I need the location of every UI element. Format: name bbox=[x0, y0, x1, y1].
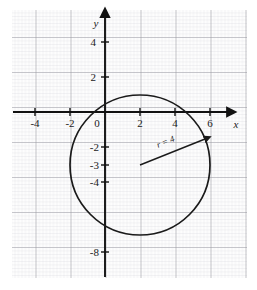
x-tick-label-4: 4 bbox=[172, 117, 178, 129]
x-tick-label-neg4: -4 bbox=[30, 117, 40, 129]
y-tick-label-neg8: -8 bbox=[90, 246, 100, 258]
coordinate-plane-svg: r = 4 -4 -2 0 2 4 6 4 2 -2 -3 -4 -8 x y bbox=[0, 0, 257, 290]
x-tick-label-2: 2 bbox=[137, 117, 143, 129]
graph-figure: r = 4 -4 -2 0 2 4 6 4 2 -2 -3 -4 -8 x y bbox=[0, 0, 257, 290]
x-tick-label-neg2: -2 bbox=[65, 117, 74, 129]
y-tick-label-2: 2 bbox=[91, 71, 97, 83]
y-tick-label-neg4: -4 bbox=[90, 176, 100, 188]
x-tick-label-0: 0 bbox=[94, 117, 100, 129]
y-axis-label: y bbox=[93, 17, 99, 29]
x-axis-label: x bbox=[233, 118, 239, 130]
x-tick-label-6: 6 bbox=[207, 117, 213, 129]
y-tick-label-4: 4 bbox=[91, 36, 97, 48]
y-tick-label-neg3: -3 bbox=[90, 159, 100, 171]
y-tick-label-neg2: -2 bbox=[90, 141, 99, 153]
graph-paper bbox=[12, 10, 247, 278]
